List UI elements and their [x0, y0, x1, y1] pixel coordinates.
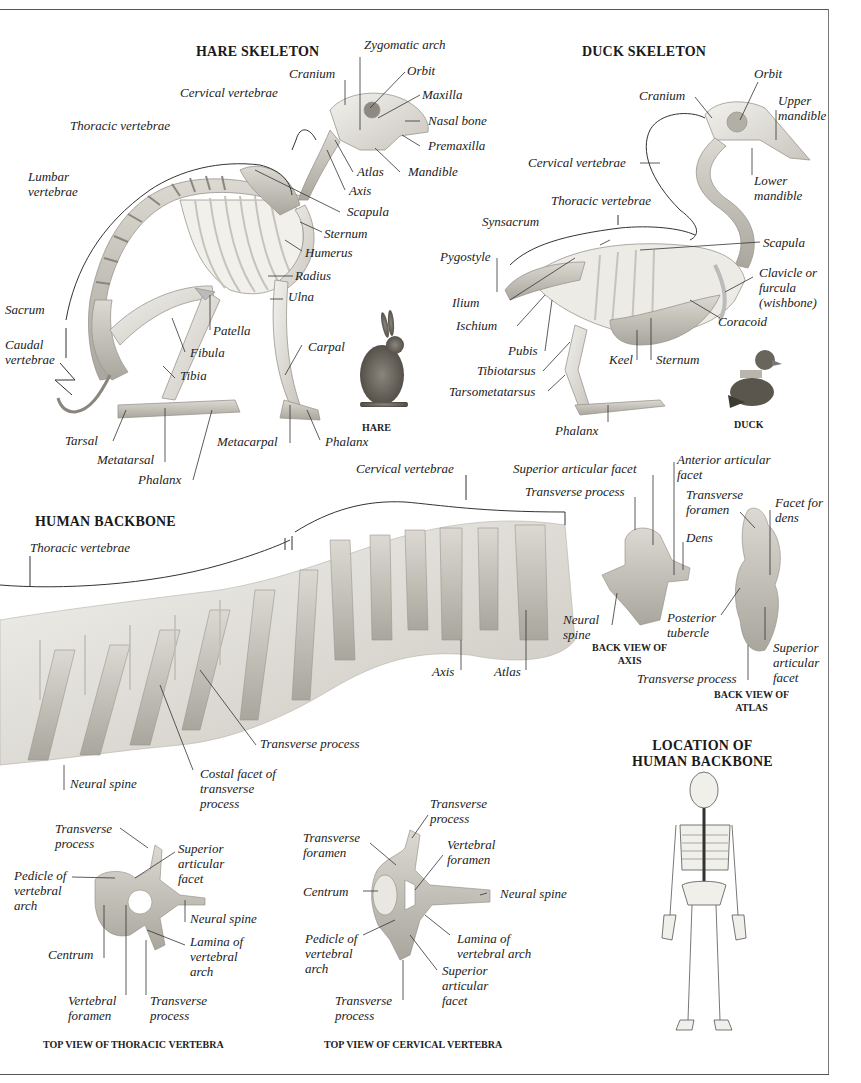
human-skeleton-location-illustration	[662, 772, 746, 1030]
label-nasal-bone: Nasal bone	[428, 113, 487, 128]
label-tibia: Tibia	[180, 368, 207, 383]
human-backbone-illustration	[0, 521, 575, 765]
hare-skeleton-title: HARE SKELETON	[196, 44, 319, 60]
label-axis-superior-articular-facet: Superior articular facet	[513, 461, 637, 476]
label-axis-transverse-process: Transverse process	[525, 484, 625, 499]
label-cervical-transverse-process-bottom: Transverse process	[335, 993, 392, 1023]
label-mandible: Mandible	[408, 164, 458, 179]
label-ulna: Ulna	[288, 289, 314, 304]
label-hare-axis: Axis	[349, 183, 371, 198]
atlas-back-view-illustration	[735, 508, 780, 651]
label-hare-phalanx-fore: Phalanx	[325, 434, 368, 449]
duck-bracket-lines	[510, 114, 705, 265]
label-duck-scapula: Scapula	[763, 235, 805, 250]
label-thoracic-superior-articular-facet: Superior articular facet	[178, 841, 224, 886]
label-duck-cervical-vertebrae: Cervical vertebrae	[528, 155, 626, 170]
label-axis-neural-spine: Neural spine	[563, 612, 599, 642]
label-cervical-superior-articular-facet: Superior articular facet	[442, 963, 488, 1008]
label-lumbar-vertebrae: Lumbar vertebrae	[28, 169, 78, 199]
label-lower-mandible: Lower mandible	[754, 173, 802, 203]
label-hare-phalanx-hind: Phalanx	[138, 472, 181, 487]
thoracic-vertebra-caption: TOP VIEW OF THORACIC VERTEBRA	[43, 1038, 224, 1051]
label-metacarpal: Metacarpal	[217, 434, 278, 449]
label-duck-cranium: Cranium	[639, 88, 685, 103]
label-backbone-axis: Axis	[432, 664, 454, 679]
label-ilium: Ilium	[452, 295, 479, 310]
label-hare-orbit: Orbit	[407, 63, 435, 78]
label-duck-orbit: Orbit	[754, 66, 782, 81]
label-duck-sternum: Sternum	[656, 352, 699, 367]
label-hare-cervical-vertebrae: Cervical vertebrae	[180, 85, 278, 100]
label-thoracic-transverse-process-bottom: Transverse process	[150, 993, 207, 1023]
label-atlas-transverse-process: Transverse process	[637, 671, 737, 686]
label-premaxilla: Premaxilla	[428, 138, 485, 153]
label-thoracic-vertebral-foramen: Vertebral foramen	[68, 993, 116, 1023]
label-synsacrum: Synsacrum	[482, 214, 539, 229]
label-tarsal: Tarsal	[65, 433, 98, 448]
label-hare-sternum: Sternum	[324, 226, 367, 241]
label-patella: Patella	[213, 323, 251, 338]
label-backbone-neural-spine: Neural spine	[70, 776, 137, 791]
label-radius: Radius	[295, 268, 331, 283]
label-backbone-atlas: Atlas	[494, 664, 521, 679]
label-posterior-tubercle: Posterior tubercle	[667, 610, 716, 640]
human-backbone-title: HUMAN BACKBONE	[35, 514, 176, 530]
label-zygomatic-arch: Zygomatic arch	[364, 37, 445, 52]
label-humerus: Humerus	[305, 245, 353, 260]
cervical-vertebra-caption: TOP VIEW OF CERVICAL VERTEBRA	[324, 1038, 502, 1051]
label-duck-phalanx: Phalanx	[555, 423, 598, 438]
label-metatarsal: Metatarsal	[97, 452, 154, 467]
label-pubis: Pubis	[508, 343, 538, 358]
label-coracoid: Coracoid	[718, 314, 767, 329]
label-thoracic-lamina: Lamina of vertebral arch	[190, 934, 243, 979]
label-cervical-transverse-process-top: Transverse process	[430, 796, 487, 826]
axis-back-view-caption: BACK VIEW OF AXIS	[592, 641, 667, 667]
label-tibiotarsus: Tibiotarsus	[477, 363, 536, 378]
label-cervical-neural-spine: Neural spine	[500, 886, 567, 901]
label-facet-for-dens: Facet for dens	[775, 495, 823, 525]
label-sacrum: Sacrum	[5, 302, 45, 317]
label-tarsometatarsus: Tarsometatarsus	[449, 384, 535, 399]
duck-icon	[728, 350, 782, 408]
label-ischium: Ischium	[456, 318, 497, 333]
duck-caption: DUCK	[734, 418, 763, 431]
hare-caption: HARE	[362, 421, 391, 434]
label-backbone-thoracic-vertebrae: Thoracic vertebrae	[30, 540, 130, 555]
label-keel: Keel	[609, 352, 633, 367]
hare-icon	[360, 310, 408, 407]
label-pygostyle: Pygostyle	[440, 249, 491, 264]
label-thoracic-centrum: Centrum	[48, 947, 94, 962]
label-hare-scapula: Scapula	[347, 204, 389, 219]
label-backbone-transverse-process: Transverse process	[260, 736, 360, 751]
label-carpal: Carpal	[308, 339, 345, 354]
label-cervical-centrum: Centrum	[303, 884, 349, 899]
label-anterior-articular-facet: Anterior articular facet	[677, 452, 771, 482]
label-cervical-lamina: Lamina of vertebral arch	[457, 931, 531, 961]
label-thoracic-transverse-process-top: Transverse process	[55, 821, 112, 851]
label-dens: Dens	[686, 530, 713, 545]
atlas-back-view-caption: BACK VIEW OF ATLAS	[714, 688, 789, 714]
label-thoracic-pedicle: Pedicle of vertebral arch	[14, 868, 66, 913]
label-hare-thoracic-vertebrae: Thoracic vertebrae	[70, 118, 170, 133]
location-title: LOCATION OF HUMAN BACKBONE	[632, 738, 773, 770]
label-upper-mandible: Upper mandible	[778, 93, 826, 123]
label-hare-cranium: Cranium	[289, 66, 335, 81]
label-caudal-vertebrae: Caudal vertebrae	[5, 337, 55, 367]
label-clavicle-furcula: Clavicle or furcula (wishbone)	[759, 265, 817, 310]
label-atlas-transverse-foramen: Transverse foramen	[686, 487, 743, 517]
label-hare-atlas: Atlas	[357, 164, 384, 179]
duck-skeleton-title: DUCK SKELETON	[582, 44, 706, 60]
label-cervical-pedicle: Pedicle of vertebral arch	[305, 931, 357, 976]
label-cervical-vertebral-foramen: Vertebral foramen	[447, 837, 495, 867]
label-backbone-cervical-vertebrae: Cervical vertebrae	[356, 461, 454, 476]
label-duck-thoracic-vertebrae: Thoracic vertebrae	[551, 193, 651, 208]
label-fibula: Fibula	[190, 345, 225, 360]
label-maxilla: Maxilla	[422, 87, 462, 102]
label-thoracic-neural-spine: Neural spine	[190, 911, 257, 926]
label-atlas-superior-articular-facet: Superior articular facet	[773, 640, 819, 685]
label-cervical-transverse-foramen: Transverse foramen	[303, 830, 360, 860]
label-costal-facet: Costal facet of transverse process	[200, 766, 276, 811]
